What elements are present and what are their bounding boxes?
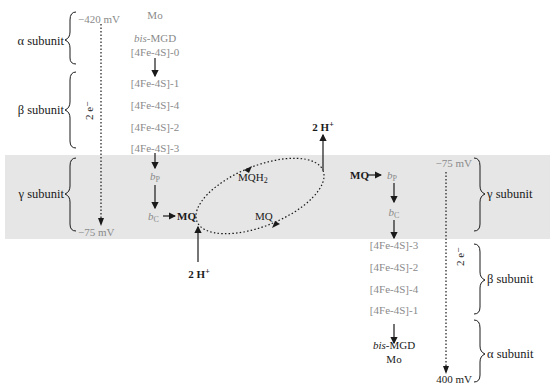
right-brace-alpha [474, 320, 485, 382]
left-bis-mgd: bis-MGD [134, 32, 176, 45]
mq-pool-label: MQ [255, 210, 273, 223]
left-protons: 2 H+ [188, 265, 209, 281]
left-fes-1: [4Fe-4S]-1 [131, 77, 179, 90]
arrows-layer [0, 0, 550, 390]
right-protons: 2 H+ [312, 118, 333, 134]
right-potential-top: −75 mV [436, 157, 472, 170]
right-heme-bp: bP [387, 169, 397, 185]
right-brace-beta [474, 244, 485, 314]
right-mq: MQ [350, 169, 369, 182]
left-beta-subunit-label: β subunit [18, 104, 64, 117]
right-mo: Mo [386, 353, 401, 366]
right-beta-subunit-label: β subunit [487, 273, 533, 286]
right-potential-bottom: 400 mV [436, 373, 472, 386]
right-gamma-subunit-label: γ subunit [487, 188, 532, 201]
right-fes-1: [4Fe-4S]-1 [370, 304, 418, 317]
right-electron-label: 2 e⁻ [454, 247, 467, 266]
right-bis-mgd: bis-MGD [373, 339, 415, 352]
left-brace-gamma [65, 158, 76, 231]
right-heme-bc: bC [389, 206, 400, 222]
left-mo: Mo [147, 9, 162, 22]
left-fes-0: [4Fe-4S]-0 [131, 46, 179, 59]
right-fes-4: [4Fe-4S]-4 [370, 283, 418, 296]
left-potential-bottom: −75 mV [78, 226, 114, 239]
left-fes-3: [4Fe-4S]-3 [131, 142, 179, 155]
right-fes-2: [4Fe-4S]-2 [370, 261, 418, 274]
left-fes-2: [4Fe-4S]-2 [131, 121, 179, 134]
left-brace-beta [65, 72, 76, 148]
right-alpha-subunit-label: α subunit [487, 348, 533, 361]
left-mq: MQ [177, 210, 196, 223]
right-fes-3: [4Fe-4S]-3 [370, 239, 418, 252]
left-fes-4: [4Fe-4S]-4 [131, 99, 179, 112]
mqh2-label: MQH2 [238, 171, 268, 187]
left-alpha-subunit-label: α subunit [18, 35, 64, 48]
left-heme-bc: bC [148, 210, 159, 226]
left-brace-alpha [65, 12, 76, 64]
left-gamma-subunit-label: γ subunit [19, 188, 64, 201]
left-electron-label: 2 e⁻ [83, 101, 96, 120]
left-potential-top: −420 mV [78, 13, 120, 26]
right-brace-gamma [474, 158, 485, 231]
left-heme-bp: bP [150, 170, 160, 186]
